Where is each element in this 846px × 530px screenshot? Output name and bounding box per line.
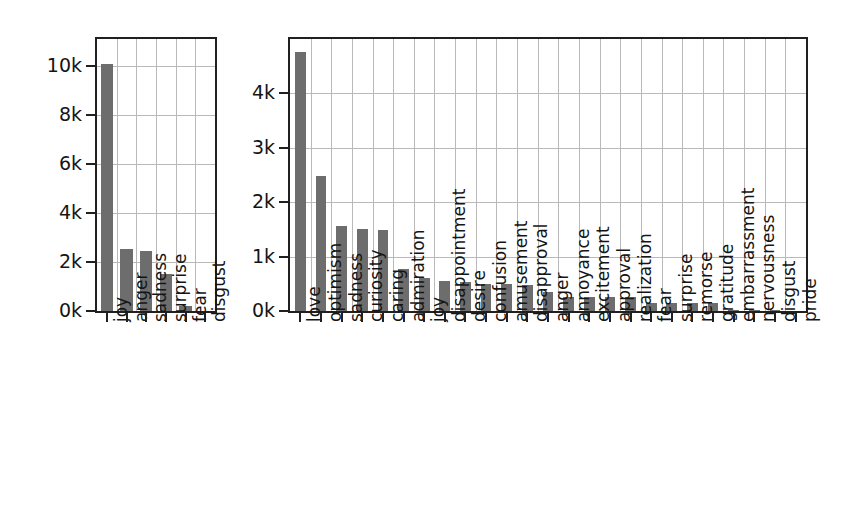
x-axis-tick-mark bbox=[712, 313, 714, 322]
y-axis-tick-label: 1k bbox=[188, 247, 275, 266]
x-axis-tick-mark bbox=[630, 313, 632, 322]
x-axis-tick-mark bbox=[299, 313, 301, 322]
y-axis-tick-mark bbox=[279, 201, 288, 203]
y-axis-tick-label: 4k bbox=[188, 83, 275, 102]
x-axis-tick-mark bbox=[650, 313, 652, 322]
x-axis-tick-label: nervousness bbox=[760, 215, 777, 322]
y-axis-tick-label: 2k bbox=[188, 192, 275, 211]
gridline-vertical bbox=[195, 39, 196, 311]
x-axis-tick-label: curiosity bbox=[368, 249, 385, 322]
bar bbox=[295, 52, 306, 311]
y-axis-tick-mark bbox=[279, 310, 288, 312]
gridline-vertical bbox=[117, 39, 118, 311]
x-axis-tick-label: surprise bbox=[678, 254, 695, 322]
gridline-horizontal bbox=[290, 202, 806, 203]
y-axis-tick-label: 10k bbox=[0, 56, 82, 75]
bar bbox=[101, 64, 113, 311]
x-axis-tick-label: sadness bbox=[348, 253, 365, 322]
x-axis-tick-mark bbox=[795, 313, 797, 322]
y-axis-tick-mark bbox=[86, 212, 95, 214]
x-axis-tick-mark bbox=[165, 313, 167, 322]
y-axis-tick-label: 0k bbox=[188, 301, 275, 320]
gridline-horizontal bbox=[290, 93, 806, 94]
x-axis-tick-mark bbox=[568, 313, 570, 322]
x-axis-tick-label: amusement bbox=[513, 220, 530, 322]
x-axis-tick-mark bbox=[485, 313, 487, 322]
y-axis-tick-label: 4k bbox=[0, 203, 82, 222]
x-axis-tick-mark bbox=[753, 313, 755, 322]
y-axis-tick-mark bbox=[86, 261, 95, 263]
x-axis-tick-mark bbox=[361, 313, 363, 322]
x-axis-tick-mark bbox=[403, 313, 405, 322]
x-axis-tick-label: embarrassment bbox=[740, 188, 757, 323]
x-axis-tick-label: admiration bbox=[410, 230, 427, 322]
x-axis-tick-label: disapproval bbox=[533, 223, 550, 322]
x-axis-tick-mark bbox=[320, 313, 322, 322]
x-axis-tick-mark bbox=[691, 313, 693, 322]
x-axis-tick-mark bbox=[588, 313, 590, 322]
y-axis-tick-label: 6k bbox=[0, 154, 82, 173]
gridline-vertical bbox=[558, 39, 559, 311]
y-axis-tick-label: 8k bbox=[0, 105, 82, 124]
x-axis-tick-mark bbox=[526, 313, 528, 322]
x-axis-tick-label: remorse bbox=[698, 252, 715, 322]
y-axis-tick-label: 3k bbox=[188, 138, 275, 157]
x-axis-tick-mark bbox=[464, 313, 466, 322]
x-axis-tick-label: excitement bbox=[595, 226, 612, 322]
gridline-vertical bbox=[136, 39, 137, 311]
x-axis-tick-label: disappointment bbox=[451, 189, 468, 322]
x-axis-tick-mark bbox=[126, 313, 128, 322]
x-axis-tick-label: gratitude bbox=[719, 244, 736, 322]
gridline-vertical bbox=[662, 39, 663, 311]
x-axis-tick-mark bbox=[547, 313, 549, 322]
x-axis-tick-mark bbox=[444, 313, 446, 322]
y-axis-tick-mark bbox=[279, 147, 288, 149]
x-axis-tick-mark bbox=[423, 313, 425, 322]
x-axis-tick-mark bbox=[506, 313, 508, 322]
x-axis-tick-label: surprise bbox=[172, 254, 189, 322]
y-axis-tick-mark bbox=[86, 310, 95, 312]
gridline-vertical bbox=[434, 39, 435, 311]
y-axis-tick-label: 0k bbox=[0, 301, 82, 320]
x-axis-tick-mark bbox=[185, 313, 187, 322]
gridline-vertical bbox=[311, 39, 312, 311]
x-axis-tick-label: pride bbox=[802, 278, 819, 322]
figure-canvas: 0k2k4k6k8k10kjoyangersadnesssurprisefear… bbox=[0, 0, 846, 530]
x-axis-tick-label: realization bbox=[637, 233, 654, 322]
x-axis-tick-mark bbox=[774, 313, 776, 322]
x-axis-tick-label: approval bbox=[616, 248, 633, 322]
gridline-horizontal bbox=[290, 148, 806, 149]
x-axis-tick-label: confusion bbox=[492, 240, 509, 322]
y-axis-tick-mark bbox=[279, 256, 288, 258]
x-axis-tick-mark bbox=[671, 313, 673, 322]
x-axis-tick-mark bbox=[733, 313, 735, 322]
x-axis-tick-mark bbox=[106, 313, 108, 322]
y-axis-tick-mark bbox=[86, 163, 95, 165]
x-axis-tick-label: annoyance bbox=[575, 229, 592, 322]
x-axis-tick-mark bbox=[341, 313, 343, 322]
x-axis-tick-mark bbox=[145, 313, 147, 322]
y-axis-tick-label: 2k bbox=[0, 252, 82, 271]
x-axis-tick-label: sadness bbox=[152, 253, 169, 322]
y-axis-tick-mark bbox=[279, 92, 288, 94]
x-axis-tick-label: optimism bbox=[327, 243, 344, 322]
x-axis-tick-mark bbox=[382, 313, 384, 322]
y-axis-tick-mark bbox=[86, 65, 95, 67]
y-axis-tick-mark bbox=[86, 114, 95, 116]
x-axis-tick-mark bbox=[609, 313, 611, 322]
